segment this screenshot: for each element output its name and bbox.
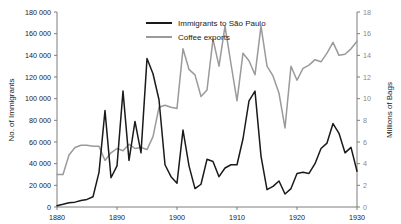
right-tick-label: 2: [363, 181, 367, 190]
x-tick-label: 1920: [289, 213, 305, 222]
x-tick-label: 1910: [229, 213, 245, 222]
left-axis-title: No. of Immigrants: [7, 78, 16, 141]
dual-axis-line-chart: 020 00040 00060 00080 000100 000120 0001…: [0, 0, 401, 224]
right-tick-label: 6: [363, 138, 367, 147]
chart-container: 020 00040 00060 00080 000100 000120 0001…: [0, 0, 401, 224]
right-tick-label: 18: [363, 8, 371, 17]
left-tick-label: 100 000: [25, 94, 51, 103]
x-tick-label: 1890: [109, 213, 125, 222]
legend-label-immigrants: Immigrants to São Paulo: [178, 19, 266, 28]
left-tick-label: 120 000: [25, 73, 51, 82]
right-axis-title: Millions of Bags: [385, 82, 394, 138]
left-tick-label: 160 000: [25, 29, 51, 38]
right-tick-label: 10: [363, 94, 371, 103]
legend-label-coffee-exports: Coffee exports: [178, 33, 230, 42]
left-tick-label: 20 000: [29, 181, 51, 190]
left-tick-label: 80 000: [29, 116, 51, 125]
left-tick-label: 40 000: [29, 159, 51, 168]
left-tick-label: 180 000: [25, 8, 51, 17]
x-tick-label: 1900: [169, 213, 185, 222]
left-tick-label: 0: [47, 203, 51, 212]
right-tick-label: 12: [363, 73, 371, 82]
right-tick-label: 16: [363, 29, 371, 38]
left-tick-label: 60 000: [29, 138, 51, 147]
right-tick-label: 4: [363, 159, 367, 168]
x-tick-label: 1880: [49, 213, 65, 222]
right-tick-label: 0: [363, 203, 367, 212]
left-tick-label: 140 000: [25, 51, 51, 60]
x-tick-label: 1930: [349, 213, 365, 222]
right-tick-label: 8: [363, 116, 367, 125]
right-tick-label: 14: [363, 51, 371, 60]
